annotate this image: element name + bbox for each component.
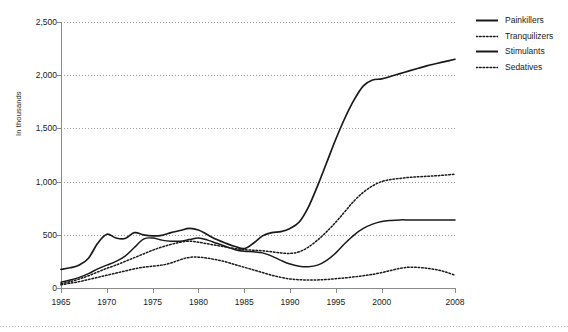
x-tick-label: 1995 [326, 297, 345, 307]
series-lines [61, 59, 455, 285]
bottom-divider [0, 326, 568, 327]
legend-label: Stimulants [505, 47, 545, 56]
legend-label: Sedatives [505, 63, 542, 72]
x-tick-label: 1965 [52, 297, 71, 307]
legend-swatch-sedatives [476, 63, 498, 72]
x-tick-label: 1975 [143, 297, 162, 307]
chart-legend: PainkillersTranquilizersStimulantsSedati… [476, 16, 553, 72]
line-chart: In thousands 05001,0001,5002,0002,500 Pa… [0, 0, 568, 332]
legend-swatch-stimulants [476, 47, 498, 56]
x-tick-label: 1970 [97, 297, 116, 307]
legend-item-painkillers[interactable]: Painkillers [476, 16, 553, 25]
legend-item-tranquilizers[interactable]: Tranquilizers [476, 32, 553, 41]
legend-swatch-painkillers [476, 16, 498, 25]
x-tick-label: 2000 [372, 297, 391, 307]
x-tick-label: 1985 [235, 297, 254, 307]
legend-label: Tranquilizers [505, 32, 553, 41]
legend-swatch-tranquilizers [476, 32, 498, 41]
x-tick-label: 2008 [446, 297, 465, 307]
x-tick-label: 1990 [281, 297, 300, 307]
gridlines [61, 23, 455, 289]
legend-label: Painkillers [505, 16, 544, 25]
axis-lines [61, 22, 455, 289]
legend-item-stimulants[interactable]: Stimulants [476, 47, 553, 56]
legend-item-sedatives[interactable]: Sedatives [476, 63, 553, 72]
series-line-tranquilizers [61, 174, 455, 284]
x-tick-label: 1980 [189, 297, 208, 307]
series-line-sedatives [61, 257, 455, 285]
series-line-painkillers [61, 59, 455, 269]
